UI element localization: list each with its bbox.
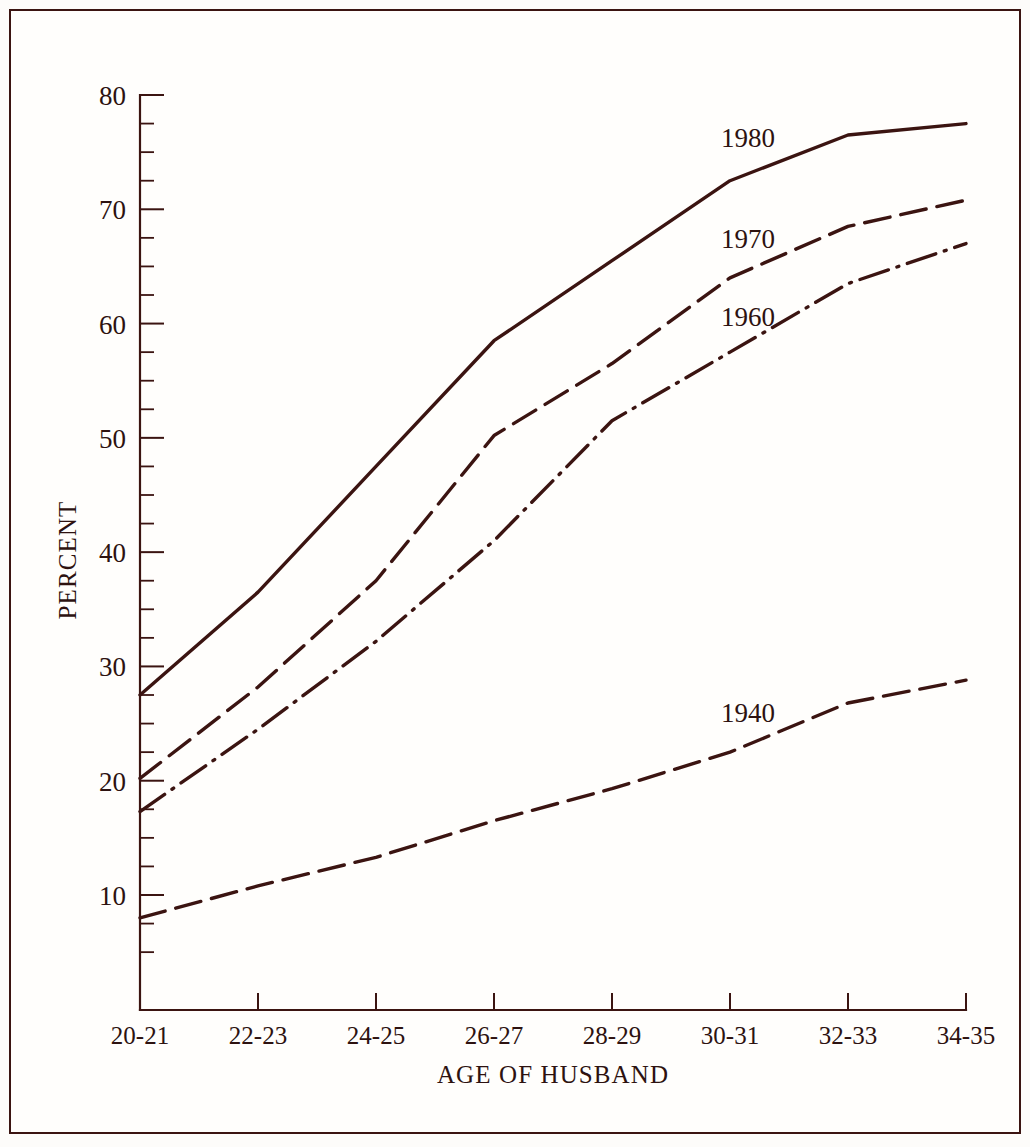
y-tick-label: 30	[99, 652, 126, 682]
x-axis-tick-labels: 20-2122-2324-2526-2728-2930-3132-3334-35	[111, 1022, 995, 1049]
x-tick-label: 30-31	[701, 1022, 759, 1049]
y-tick-label: 10	[99, 881, 126, 911]
y-tick-label: 40	[99, 538, 126, 568]
series-line-1980	[140, 124, 966, 695]
x-tick-label: 20-21	[111, 1022, 169, 1049]
y-tick-label: 50	[99, 424, 126, 454]
y-tick-label: 70	[99, 195, 126, 225]
series-label-1960: 1960	[721, 302, 775, 332]
x-tick-label: 22-23	[229, 1022, 287, 1049]
y-axis-tick-labels: 8070605040302010	[99, 81, 126, 911]
line-chart: 8070605040302010 20-2122-2324-2526-2728-…	[0, 0, 1030, 1147]
y-tick-label: 60	[99, 310, 126, 340]
chart-figure: 8070605040302010 20-2122-2324-2526-2728-…	[0, 0, 1030, 1147]
series-lines	[140, 124, 966, 918]
series-label-1980: 1980	[721, 123, 775, 153]
series-line-1960	[140, 244, 966, 812]
series-line-1940	[140, 680, 966, 918]
x-axis-ticks	[140, 993, 966, 1010]
series-label-1970: 1970	[721, 224, 775, 254]
x-tick-label: 24-25	[347, 1022, 405, 1049]
x-axis-title: AGE OF HUSBAND	[437, 1061, 669, 1088]
series-labels: 1980197019601940	[721, 123, 775, 728]
y-axis-ticks	[140, 95, 164, 952]
y-tick-label: 80	[99, 81, 126, 111]
x-tick-label: 26-27	[465, 1022, 523, 1049]
x-tick-label: 28-29	[583, 1022, 641, 1049]
y-tick-label: 20	[99, 767, 126, 797]
y-axis-title: PERCENT	[54, 501, 81, 620]
x-tick-label: 32-33	[819, 1022, 877, 1049]
x-tick-label: 34-35	[937, 1022, 995, 1049]
series-label-1940: 1940	[721, 698, 775, 728]
